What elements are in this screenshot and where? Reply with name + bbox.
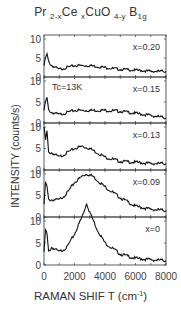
- x-tick-label: 0: [41, 271, 47, 282]
- spectrum-line: [44, 54, 166, 73]
- x-tick-label: 2000: [63, 271, 86, 282]
- y-tick-label: 10: [30, 169, 42, 180]
- y-tick-label: 10: [30, 216, 42, 227]
- panel-label: x=0: [145, 224, 160, 234]
- y-tick-label: 0: [35, 260, 41, 271]
- x-tick-label: 6000: [124, 271, 147, 282]
- panel-label: x=0.15: [133, 84, 160, 94]
- y-tick-label: 10: [30, 76, 42, 87]
- y-tick-label: 5: [35, 97, 41, 108]
- y-axis-label: INTENSITY (counts/s): [9, 81, 21, 231]
- panel-label: x=0.20: [133, 42, 160, 52]
- panel-label: x=0.09: [133, 177, 160, 187]
- plot-area: 0510x=0.200510x=0.150510x=0.130510x=0.09…: [0, 0, 181, 312]
- x-tick-label: 4000: [94, 271, 117, 282]
- y-tick-label: 5: [35, 238, 41, 249]
- y-tick-label: 5: [35, 53, 41, 64]
- tc-annotation: Tc=13K: [52, 82, 82, 92]
- y-tick-label: 10: [30, 34, 42, 45]
- x-axis-label: RAMAN SHIF T (cm-1): [0, 290, 181, 302]
- y-tick-label: 5: [35, 190, 41, 201]
- x-tick-label: 8000: [155, 271, 178, 282]
- spectrum-line: [44, 97, 166, 119]
- panel-label: x=0.13: [133, 130, 160, 140]
- y-tick-label: 10: [30, 122, 42, 133]
- y-tick-label: 5: [35, 143, 41, 154]
